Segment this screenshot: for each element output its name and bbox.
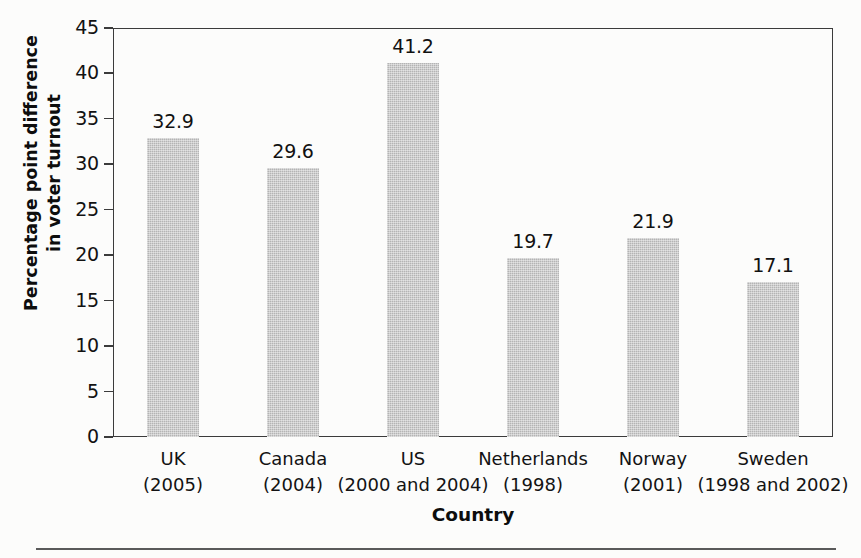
- y-axis-tick-mark: [104, 27, 113, 29]
- bar[interactable]: [507, 258, 559, 437]
- bar[interactable]: [147, 138, 199, 437]
- y-axis-tick-label: 10: [75, 334, 99, 356]
- chart-page: Percentage point difference in voter tur…: [0, 0, 861, 558]
- bar-group: 19.7: [473, 28, 593, 437]
- bar-value-label: 41.2: [392, 35, 434, 57]
- bars-layer: 32.929.641.219.721.917.1: [113, 28, 833, 437]
- y-axis-tick-label: 35: [75, 107, 99, 129]
- y-axis-tick-mark: [104, 163, 113, 165]
- bar-group: 32.9: [113, 28, 233, 437]
- y-axis-tick-mark: [104, 345, 113, 347]
- x-axis-category-label: Sweden(1998 and 2002): [688, 446, 858, 497]
- bar[interactable]: [267, 168, 319, 437]
- x-axis-category-year: (1998 and 2002): [688, 472, 858, 498]
- bar[interactable]: [387, 63, 439, 437]
- bar-value-label: 32.9: [152, 110, 194, 132]
- x-axis-category-labels: UK(2005)Canada(2004)US(2000 and 2004)Net…: [113, 446, 833, 502]
- bar-value-label: 17.1: [752, 254, 794, 276]
- bar-value-label: 19.7: [512, 230, 554, 252]
- y-axis-tick-label: 40: [75, 61, 99, 83]
- bar[interactable]: [747, 282, 799, 437]
- x-axis-title: Country: [113, 504, 833, 525]
- page-divider-rule: [36, 548, 836, 550]
- y-axis-tick-mark: [104, 254, 113, 256]
- y-axis-tick-mark: [104, 72, 113, 74]
- y-axis-tick-mark: [104, 391, 113, 393]
- y-axis-tick-label: 30: [75, 152, 99, 174]
- y-axis-tick-label: 25: [75, 198, 99, 220]
- y-axis-tick-label: 45: [75, 16, 99, 38]
- y-axis: 051015202530354045: [0, 28, 113, 437]
- bar-value-label: 29.6: [272, 140, 314, 162]
- y-axis-tick-label: 20: [75, 243, 99, 265]
- y-axis-tick-mark: [104, 209, 113, 211]
- y-axis-tick-label: 5: [87, 380, 99, 402]
- y-axis-tick-mark: [104, 436, 113, 438]
- bar-value-label: 21.9: [632, 210, 674, 232]
- bar-group: 41.2: [353, 28, 473, 437]
- y-axis-tick-mark: [104, 300, 113, 302]
- x-axis-category-name: Sweden: [688, 446, 858, 472]
- y-axis-tick-label: 15: [75, 289, 99, 311]
- bar[interactable]: [627, 238, 679, 437]
- bar-group: 29.6: [233, 28, 353, 437]
- y-axis-tick-label: 0: [87, 425, 99, 447]
- bar-group: 21.9: [593, 28, 713, 437]
- bar-group: 17.1: [713, 28, 833, 437]
- y-axis-tick-mark: [104, 118, 113, 120]
